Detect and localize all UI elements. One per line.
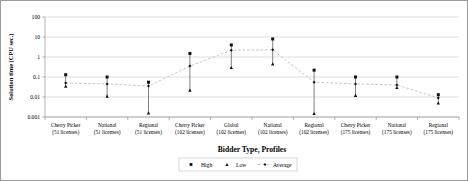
point-average [147, 85, 150, 88]
x-axis-title: Bidder Type, Profiles [218, 145, 286, 154]
x-category-profiles: (175 licenses) [424, 129, 454, 136]
chart-legend: HighLowAverage [179, 158, 297, 171]
y-tick-label: 1 [37, 54, 40, 60]
chart-canvas: 1001010.10.010.001Solution time (CPU sec… [1, 1, 468, 181]
x-category-name: National [98, 122, 117, 128]
x-category-profiles: (102 licenses) [175, 129, 205, 136]
legend-label: Average [273, 162, 292, 168]
point-low [395, 86, 398, 89]
legend-label: High [201, 162, 212, 168]
y-tick-label: 10 [34, 34, 40, 40]
point-high [354, 76, 357, 79]
point-average [354, 82, 357, 85]
point-high [271, 37, 274, 40]
x-category-name: Cherry Picker [341, 122, 371, 128]
x-category-name: National [264, 122, 283, 128]
point-low [188, 89, 191, 92]
x-category-profiles: (51 licenses) [52, 129, 79, 136]
x-category-name: Regional [305, 122, 325, 128]
legend-label: Low [236, 162, 247, 168]
point-high [313, 69, 316, 72]
point-low [354, 94, 357, 97]
x-category-name: Cherry Picker [175, 122, 205, 128]
point-high [188, 52, 191, 55]
point-average [188, 65, 191, 68]
x-category-profiles: (51 licenses) [94, 129, 121, 136]
x-category-name: Cherry Picker [51, 122, 81, 128]
point-low [271, 62, 274, 65]
point-average [230, 49, 233, 52]
x-category-profiles: (175 licenses) [382, 129, 412, 136]
x-category-profiles: (175 licenses) [341, 129, 371, 136]
x-category-profiles: (51 licenses) [135, 129, 162, 136]
x-tick-labels: Cherry Picker(51 licenses)National(51 li… [51, 122, 453, 136]
point-high [437, 93, 440, 96]
point-low [230, 66, 233, 69]
point-high [64, 73, 67, 76]
x-category-name: Regional [139, 122, 159, 128]
y-tick-label: 0.1 [33, 74, 40, 80]
x-category-name: National [388, 122, 407, 128]
legend-marker-high [190, 163, 193, 166]
chart-figure: 1001010.10.010.001Solution time (CPU sec… [0, 0, 468, 181]
point-low [147, 111, 150, 114]
point-average [106, 82, 109, 85]
point-average [64, 82, 67, 85]
x-category-name: Regional [429, 122, 449, 128]
point-low [64, 85, 67, 88]
point-high [395, 76, 398, 79]
point-low [312, 112, 315, 115]
x-category-profiles: (102 licenses) [217, 129, 247, 136]
point-high [147, 81, 150, 84]
x-category-profiles: (102 licenses) [258, 129, 288, 136]
x-category-profiles: (102 licenses) [299, 129, 329, 136]
point-low [105, 95, 108, 98]
point-high [230, 43, 233, 46]
x-category-name: Global [224, 122, 239, 128]
y-axis-title: Solution time (CPU sec.) [7, 34, 15, 101]
y-tick-label: 0.001 [27, 114, 40, 120]
point-low [437, 101, 440, 104]
point-high [106, 76, 109, 79]
x-tickmarks [45, 117, 459, 120]
y-tick-label: 100 [32, 14, 41, 20]
y-tick-label: 0.01 [30, 94, 40, 100]
y-gridlines: 1001010.10.010.001 [27, 14, 459, 120]
data-points [64, 37, 440, 115]
